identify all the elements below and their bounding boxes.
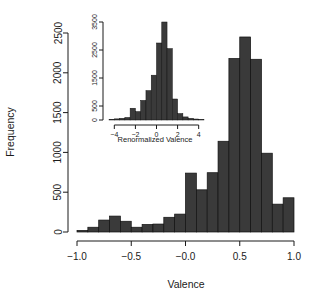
svg-text:2500: 2500 (53, 21, 64, 44)
svg-text:4: 4 (197, 131, 201, 138)
inset-plot-group: −4−2024 0500150025003500 Renormalized Va… (91, 14, 204, 144)
main-plot-group: −1.0−0.5−0.00.51.0 05001000150020002500 … (4, 21, 301, 290)
main-y-axis-label: Frequency (4, 106, 16, 156)
histogram-figure: −1.0−0.5−0.00.51.0 05001000150020002500 … (0, 0, 322, 302)
inset-y-axis: 0500150025003500 (91, 14, 103, 122)
svg-text:−0.0: −0.0 (176, 251, 196, 262)
main-x-axis: −1.0−0.5−0.00.51.0 (67, 241, 301, 262)
svg-text:500: 500 (91, 100, 98, 112)
svg-text:−1.0: −1.0 (67, 251, 87, 262)
main-x-axis-label: Valence (167, 278, 204, 290)
svg-text:1500: 1500 (53, 101, 64, 124)
svg-text:−0.5: −0.5 (121, 251, 141, 262)
inset-histogram-bars (109, 22, 204, 120)
svg-text:3500: 3500 (91, 14, 98, 30)
inset-x-axis-label: Renormalized Valence (118, 135, 193, 144)
svg-text:0: 0 (53, 229, 64, 235)
svg-text:2500: 2500 (91, 42, 98, 58)
valence-histogram-plot: −1.0−0.5−0.00.51.0 05001000150020002500 … (0, 0, 322, 302)
svg-text:500: 500 (53, 183, 64, 200)
svg-text:2000: 2000 (53, 61, 64, 84)
svg-text:0.5: 0.5 (233, 251, 247, 262)
svg-text:1500: 1500 (91, 70, 98, 86)
main-y-axis: 05001000150020002500 (53, 21, 69, 234)
svg-text:0: 0 (91, 118, 98, 122)
svg-text:1.0: 1.0 (287, 251, 301, 262)
svg-text:1000: 1000 (53, 141, 64, 164)
